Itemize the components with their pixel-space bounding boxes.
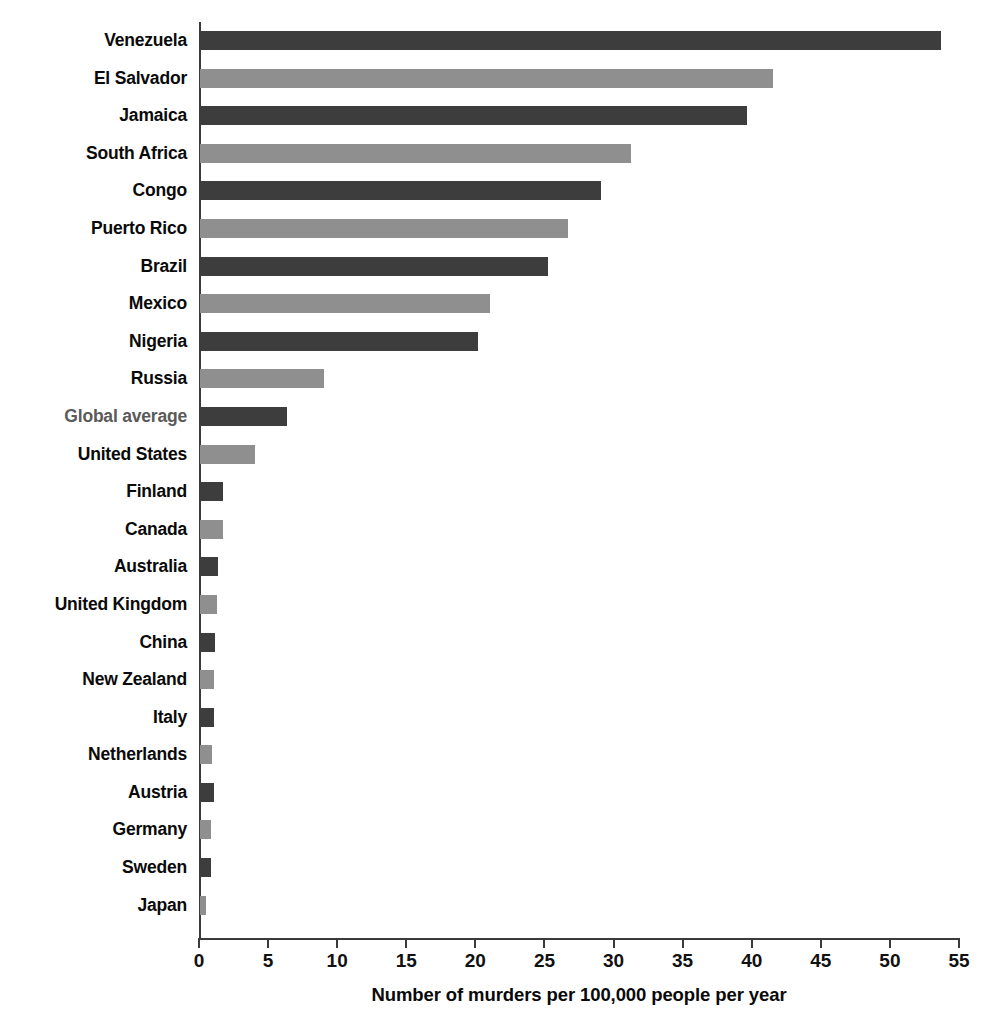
bar-category-label: Italy (153, 699, 187, 737)
bar-row: South Africa (199, 135, 959, 173)
bar-row: Australia (199, 548, 959, 586)
bar-category-label: New Zealand (82, 661, 187, 699)
x-tick-label: 20 (465, 950, 486, 972)
bar-row: Germany (199, 811, 959, 849)
x-tick-label: 45 (810, 950, 831, 972)
x-axis-title: Number of murders per 100,000 people per… (199, 984, 959, 1006)
bar-rows: VenezuelaEl SalvadorJamaicaSouth AfricaC… (199, 22, 959, 924)
x-tick-label: 50 (879, 950, 900, 972)
bar-row: Puerto Rico (199, 210, 959, 248)
bar-row: New Zealand (199, 661, 959, 699)
bar-category-label: Puerto Rico (91, 210, 187, 248)
x-tick-label: 10 (327, 950, 348, 972)
bar (200, 708, 214, 727)
bar-row: Sweden (199, 849, 959, 887)
x-tick-mark (405, 938, 407, 948)
x-tick-mark (889, 938, 891, 948)
bar-row: United Kingdom (199, 586, 959, 624)
bar-category-label: El Salvador (94, 60, 187, 98)
x-tick-mark (543, 938, 545, 948)
x-tick-mark (958, 938, 960, 948)
bar-category-label: Russia (131, 360, 187, 398)
bar-category-label: Nigeria (129, 323, 187, 361)
bar-category-label: United Kingdom (55, 586, 187, 624)
bar (200, 633, 215, 652)
bar (200, 520, 223, 539)
bar-row: Canada (199, 511, 959, 549)
bar-row: Japan (199, 887, 959, 925)
x-tick-label: 0 (194, 950, 205, 972)
bar (200, 783, 214, 802)
bar-row: Jamaica (199, 97, 959, 135)
bar-row: Venezuela (199, 22, 959, 60)
bar-category-label: China (139, 624, 187, 662)
bar-category-label: Mexico (129, 285, 187, 323)
bar-row: Austria (199, 774, 959, 812)
x-tick-label: 35 (672, 950, 693, 972)
bar-category-label: Finland (126, 473, 187, 511)
bar-category-label: Brazil (141, 248, 187, 286)
x-tick-label: 40 (741, 950, 762, 972)
bar (200, 407, 287, 426)
bar-row: Mexico (199, 285, 959, 323)
bar (200, 257, 548, 276)
bar (200, 858, 211, 877)
x-tick-label: 5 (263, 950, 274, 972)
bar (200, 557, 218, 576)
bar (200, 31, 941, 50)
bar (200, 820, 211, 839)
bar-category-label: Jamaica (119, 97, 187, 135)
x-tick-label: 15 (396, 950, 417, 972)
bar (200, 219, 568, 238)
bar-row: Brazil (199, 248, 959, 286)
bar-category-label: Sweden (122, 849, 187, 887)
bar-category-label: Congo (133, 172, 187, 210)
bar-row: Finland (199, 473, 959, 511)
x-tick-label: 30 (603, 950, 624, 972)
bar-category-label: Venezuela (104, 22, 187, 60)
bar-row: Italy (199, 699, 959, 737)
bar-category-label: United States (78, 436, 187, 474)
x-tick-label: 25 (534, 950, 555, 972)
plot-area: VenezuelaEl SalvadorJamaicaSouth AfricaC… (199, 22, 959, 938)
bar (200, 69, 773, 88)
bar-row: United States (199, 436, 959, 474)
bar-row: Netherlands (199, 736, 959, 774)
bar-row: El Salvador (199, 60, 959, 98)
bar (200, 144, 631, 163)
bar-category-label: Japan (137, 887, 187, 925)
bar (200, 294, 490, 313)
bar-category-label: Austria (128, 774, 187, 812)
bar-category-label: Germany (113, 811, 187, 849)
bar-category-label: Netherlands (88, 736, 187, 774)
bar (200, 181, 601, 200)
bar-category-label: Global average (64, 398, 187, 436)
bar-category-label: South Africa (86, 135, 187, 173)
bar-row: China (199, 624, 959, 662)
x-tick-mark (613, 938, 615, 948)
bar (200, 369, 324, 388)
bar (200, 595, 217, 614)
bar-row: Nigeria (199, 323, 959, 361)
x-tick-mark (474, 938, 476, 948)
bar-chart: VenezuelaEl SalvadorJamaicaSouth AfricaC… (0, 0, 985, 1024)
x-tick-mark (751, 938, 753, 948)
x-tick-mark (336, 938, 338, 948)
bar (200, 745, 212, 764)
bar (200, 670, 214, 689)
x-tick-mark (682, 938, 684, 948)
x-tick-mark (820, 938, 822, 948)
bar-category-label: Canada (125, 511, 187, 549)
bar-row: Russia (199, 360, 959, 398)
x-tick-mark (267, 938, 269, 948)
bar-category-label: Australia (114, 548, 187, 586)
bar (200, 106, 747, 125)
bar-row: Congo (199, 172, 959, 210)
bar (200, 332, 478, 351)
bar-row: Global average (199, 398, 959, 436)
bar (200, 445, 255, 464)
bar (200, 482, 223, 501)
bar (200, 896, 206, 915)
x-tick-mark (198, 938, 200, 948)
x-tick-label: 55 (948, 950, 969, 972)
